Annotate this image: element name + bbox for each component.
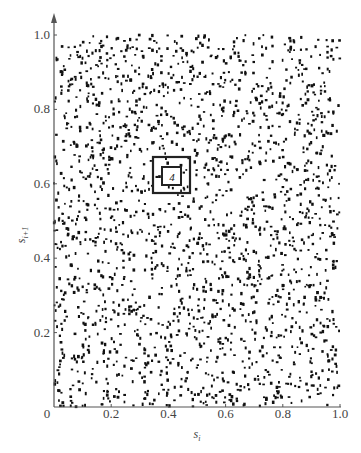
y-tick-label: 0.6 bbox=[34, 176, 51, 191]
x-tick-label: 0.2 bbox=[103, 406, 119, 421]
data-points bbox=[53, 34, 341, 408]
y-axis-label: si+1 bbox=[14, 227, 30, 243]
y-axis-arrow-icon bbox=[51, 13, 57, 23]
scatter-plot: 00.20.40.60.81.0 0.20.40.60.81.0 si si+1… bbox=[0, 0, 361, 453]
x-tick-label: 0.4 bbox=[160, 406, 177, 421]
y-tick-label: 1.0 bbox=[34, 27, 50, 42]
box-number-label: 4 bbox=[169, 171, 175, 183]
y-tick-label: 0.2 bbox=[34, 325, 50, 340]
x-axis-label: si bbox=[194, 427, 201, 443]
y-tick-label: 0.4 bbox=[34, 250, 51, 265]
x-tick-label: 0.6 bbox=[217, 406, 234, 421]
x-tick-label: 1.0 bbox=[332, 406, 348, 421]
x-tick-label: 0 bbox=[44, 406, 51, 421]
x-tick-label: 0.8 bbox=[275, 406, 291, 421]
y-tick-label: 0.8 bbox=[34, 101, 50, 116]
